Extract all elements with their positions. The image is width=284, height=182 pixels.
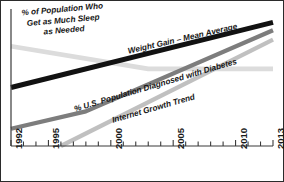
x-tick-label-2000: 2000 (113, 128, 124, 149)
x-tick-label-2013: 2013 (275, 128, 284, 149)
x-tick-label-1995: 1995 (50, 128, 61, 149)
x-tick-label-1992: 1992 (13, 128, 24, 149)
chart-container: 1992 1995 2000 2005 2010 2013 % of Popul… (0, 0, 284, 182)
x-tick-label-2010: 2010 (238, 128, 249, 149)
x-tick-label-2005: 2005 (175, 128, 186, 149)
